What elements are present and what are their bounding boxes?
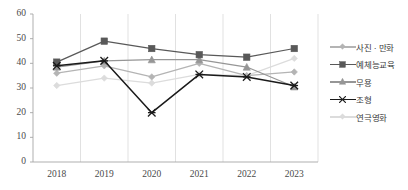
legend-item-label: 무용 <box>356 76 372 88</box>
legend-marker-icon <box>339 43 346 50</box>
y-axis-tick-label: 0 <box>6 156 26 166</box>
data-point-marker-square <box>340 61 346 67</box>
legend-item-2[interactable]: 예체능교육 <box>330 56 408 74</box>
legend-key-star-icon <box>330 93 356 105</box>
legend-item-1[interactable]: 사진 · 만화 <box>330 38 408 56</box>
legend-item-4[interactable]: 조형 <box>330 91 408 109</box>
legend-key-square-icon <box>330 58 356 70</box>
legend-key-diamond-icon <box>330 41 356 53</box>
legend-key-diamond-icon <box>330 111 356 123</box>
y-axis-tick-label: 30 <box>6 82 26 92</box>
data-point-marker-diamond <box>291 55 297 61</box>
data-point-marker-diamond <box>291 69 297 75</box>
data-point-marker-diamond <box>149 80 155 86</box>
line-chart: 6050403020100 201820192020202120222023 사… <box>0 0 408 190</box>
data-point-marker-square <box>244 54 250 60</box>
x-axis-tick-label: 2023 <box>272 169 316 179</box>
data-point-marker-diamond <box>340 44 346 50</box>
y-axis-tick-label: 20 <box>6 107 26 117</box>
legend-marker-icon <box>339 61 346 68</box>
legend-item-label: 조형 <box>356 93 372 105</box>
y-axis-tick-label: 60 <box>6 8 26 18</box>
data-point-marker-triangle <box>339 79 345 85</box>
legend-item-label: 사진 · 만화 <box>356 41 394 53</box>
legend-item-label: 예체능교육 <box>356 58 395 70</box>
data-point-marker-square <box>196 52 202 58</box>
y-axis-tick-label: 40 <box>6 57 26 67</box>
chart-legend: 사진 · 만화예체능교육무용조형연극영화 <box>330 38 408 126</box>
x-axis-tick-label: 2018 <box>35 169 79 179</box>
x-axis-tick-label: 2020 <box>130 169 174 179</box>
x-axis-tick-label: 2021 <box>177 169 221 179</box>
y-axis-tick-label: 50 <box>6 33 26 43</box>
legend-item-5[interactable]: 연극영화 <box>330 108 408 126</box>
data-point-marker-square <box>101 38 107 44</box>
data-point-marker-square <box>149 45 155 51</box>
legend-item-label: 연극영화 <box>356 111 387 123</box>
y-axis-tick-label: 10 <box>6 131 26 141</box>
legend-marker-icon <box>339 96 346 103</box>
data-point-marker-square <box>291 45 297 51</box>
data-point-marker-diamond <box>340 114 346 120</box>
data-point-marker-diamond <box>54 82 60 88</box>
x-axis-tick-label: 2022 <box>225 169 269 179</box>
legend-key-triangle-icon <box>330 76 356 88</box>
legend-marker-icon <box>339 113 346 120</box>
legend-item-3[interactable]: 무용 <box>330 73 408 91</box>
x-axis-tick-label: 2019 <box>82 169 126 179</box>
data-point-marker-diamond <box>54 70 60 76</box>
legend-marker-icon <box>339 78 346 85</box>
data-point-marker-diamond <box>101 75 107 81</box>
data-point-marker-diamond <box>149 74 155 80</box>
